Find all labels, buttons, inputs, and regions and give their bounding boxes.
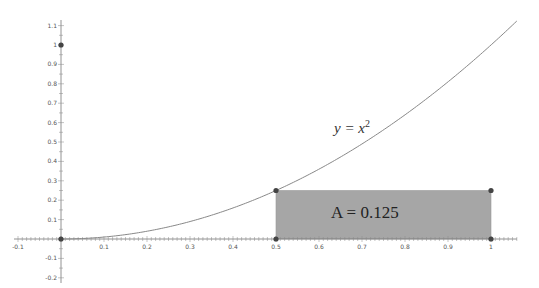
x-tick-label: 0.1	[99, 243, 109, 250]
y-tick-label: 0.9	[47, 60, 57, 67]
x-tick-label: 0.8	[400, 243, 410, 250]
x-tick-label: 0.6	[314, 243, 324, 250]
y-tick-label: 0.4	[47, 157, 57, 164]
y-tick-label: 0.2	[47, 196, 57, 203]
y-tick-label: 0.7	[47, 99, 57, 106]
point-marker	[273, 188, 278, 193]
y-tick-label: 0.1	[47, 216, 57, 223]
x-tick-label: 0.4	[228, 243, 238, 250]
x-tick-label: 0.7	[357, 243, 367, 250]
x-tick-label: 0.9	[443, 243, 453, 250]
y-tick-label: 1	[53, 41, 57, 48]
y-tick-label: 0.5	[47, 138, 57, 145]
x-tick-label: 0.3	[185, 243, 195, 250]
point-marker	[58, 42, 63, 47]
x-tick-label: 0.5	[271, 243, 281, 250]
point-marker	[273, 236, 278, 241]
point-marker	[58, 236, 63, 241]
y-tick-label: -0.1	[45, 254, 57, 261]
function-plot: -0.10.10.20.30.40.50.60.70.80.91-0.2-0.1…	[0, 0, 539, 288]
y-tick-label: 0.3	[47, 177, 57, 184]
point-marker	[488, 188, 493, 193]
x-tick-label: 0.2	[142, 243, 152, 250]
y-tick-label: 0.8	[47, 80, 57, 87]
axes: -0.10.10.20.30.40.50.60.70.80.91-0.2-0.1…	[12, 20, 517, 283]
x-tick-label: -0.1	[12, 243, 24, 250]
point-marker	[488, 236, 493, 241]
curve-label: y = x2	[332, 118, 370, 136]
y-tick-label: -0.2	[45, 274, 57, 281]
area-label: A = 0.125	[331, 203, 399, 222]
x-tick-label: 1	[489, 243, 493, 250]
plot-canvas: -0.10.10.20.30.40.50.60.70.80.91-0.2-0.1…	[0, 0, 539, 288]
y-tick-label: 0.6	[47, 119, 57, 126]
y-tick-label: 1.1	[47, 22, 57, 29]
